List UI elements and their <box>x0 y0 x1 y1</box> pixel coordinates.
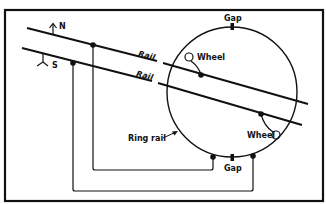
ring-rail-diagram: Gap Gap Rail Rail N S Wheel Wheel Ring r… <box>0 0 326 204</box>
rail-upper-right <box>163 63 308 104</box>
wheel-upper-label: Wheel <box>197 53 225 62</box>
ring-rail-label: Ring rail <box>128 134 166 143</box>
wheel-upper-contact <box>198 72 204 78</box>
north-label: N <box>59 22 66 31</box>
gap-top-marker <box>231 23 235 30</box>
wheel-lower-contact <box>258 111 264 117</box>
rail-lower-label: Rail <box>135 69 154 82</box>
gap-bottom-label: Gap <box>224 164 242 173</box>
south-label: S <box>52 61 58 70</box>
rail-upper-label: Rail <box>137 49 156 62</box>
wheel-upper <box>185 53 193 61</box>
junction-lower-rail <box>70 60 76 66</box>
junction-ring-left <box>210 154 216 160</box>
wheel-lower-label: Wheel <box>247 131 275 140</box>
rail-lower-right <box>158 83 302 125</box>
junction-ring-right <box>250 153 256 159</box>
gap-top-label: Gap <box>224 14 242 23</box>
junction-upper-rail <box>90 42 96 48</box>
rail-lower-left <box>22 48 152 81</box>
diagram-frame <box>5 10 323 201</box>
gap-bottom-marker <box>231 154 235 161</box>
